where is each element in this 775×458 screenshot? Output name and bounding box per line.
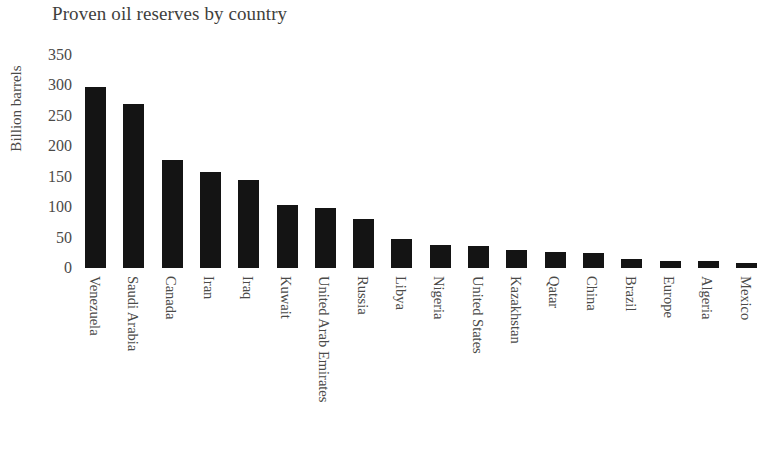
bar [506, 250, 527, 268]
x-axis-tick-label: Algeria [699, 276, 714, 319]
bar [698, 261, 719, 268]
bar [736, 263, 757, 268]
bar [200, 172, 221, 268]
bar [468, 246, 489, 268]
x-axis-tick-label: Kuwait [278, 276, 293, 319]
x-axis-tick-label: Libya [393, 276, 408, 310]
bar [353, 219, 374, 268]
bar [277, 205, 298, 268]
bar [430, 245, 451, 268]
bar [660, 261, 681, 268]
x-axis-tick-label: Saudi Arabia [125, 276, 140, 351]
x-axis-tick-label: Kazakhstan [508, 276, 523, 344]
x-axis-tick-label: Nigeria [431, 276, 446, 319]
x-axis-tick-label: United Arab Emirates [316, 276, 331, 402]
bar [162, 160, 183, 268]
bar [85, 87, 106, 268]
x-axis-tick-label: United States [470, 276, 485, 354]
bar [621, 259, 642, 268]
x-axis-tick-label: Venezuela [87, 276, 102, 336]
x-axis-tick-label: Canada [163, 276, 178, 319]
x-axis-tick-label: Europe [661, 276, 676, 318]
bar [391, 239, 412, 268]
bar [238, 180, 259, 268]
x-axis-tick-label: Brazil [623, 276, 638, 311]
plot-area: VenezuelaSaudi ArabiaCanadaIranIraqKuwai… [0, 0, 775, 458]
bar [123, 104, 144, 268]
bar [315, 208, 336, 268]
x-axis-tick-label: Russia [355, 276, 370, 315]
bar [583, 253, 604, 268]
x-axis-tick-label: Iraq [240, 276, 255, 299]
x-axis-tick-label: China [584, 276, 599, 311]
bar-chart: Proven oil reserves by country Billion b… [0, 0, 775, 458]
x-axis-tick-label: Qatar [546, 276, 561, 308]
x-axis-tick-label: Iran [201, 276, 216, 299]
bar [545, 252, 566, 268]
x-axis-tick-label: Mexico [738, 276, 753, 320]
